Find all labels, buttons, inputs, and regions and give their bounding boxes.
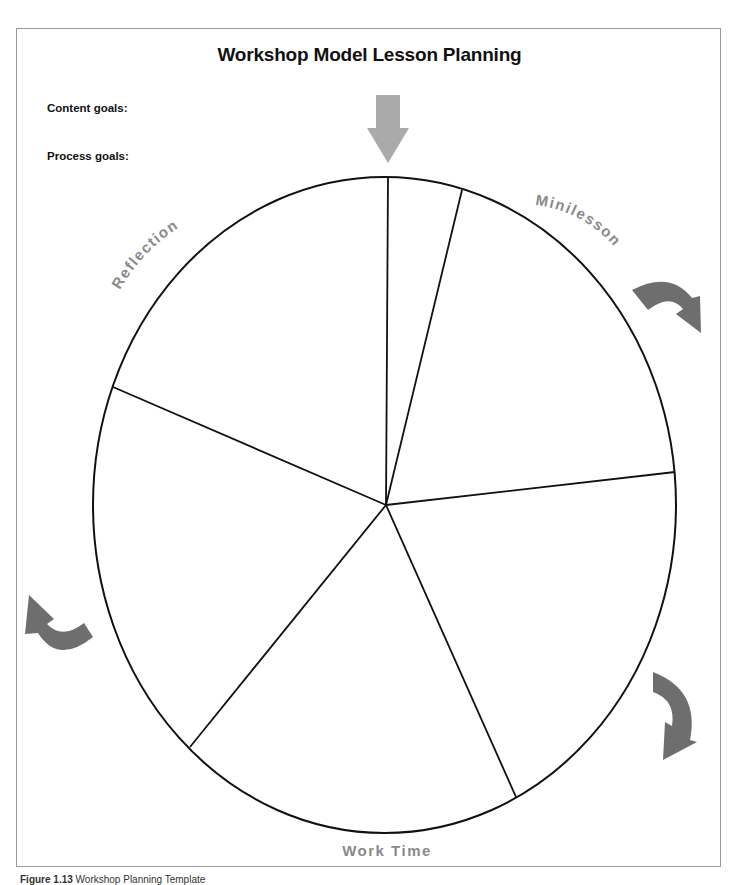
work-time-label: Work Time: [342, 842, 432, 859]
minilesson-curved-arrow-icon: [632, 282, 701, 333]
work-time-curved-arrow-icon: [653, 672, 697, 760]
start-arrow-icon: [367, 95, 409, 163]
reflection-label: Reflection: [108, 215, 181, 291]
figure-caption-text: Workshop Planning Template: [76, 874, 206, 885]
figure-caption: Figure 1.13 Workshop Planning Template: [20, 874, 205, 885]
reflection-curved-arrow-icon: [25, 595, 93, 650]
figure-number: Figure 1.13: [20, 874, 73, 885]
segment-dividers: [113, 177, 675, 797]
minilesson-label: Minilesson: [534, 191, 625, 250]
